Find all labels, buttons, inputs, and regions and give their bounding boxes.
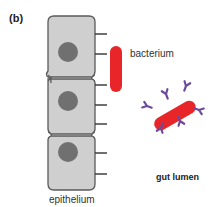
epithelium-column	[47, 16, 108, 190]
bacterium-free	[152, 98, 198, 132]
bacterium-attached	[110, 46, 122, 92]
gut-lumen-label: gut lumen	[156, 172, 199, 182]
epithelium-label: epithelium	[49, 194, 95, 205]
nucleus-3	[58, 142, 78, 162]
bacterium-label: bacterium	[130, 48, 174, 59]
nucleus-2	[58, 91, 78, 111]
microvilli	[95, 34, 107, 174]
antibody-icon	[142, 102, 153, 111]
antibody-icon	[181, 81, 190, 92]
nucleus-1	[58, 42, 78, 62]
bacterium-coated-with-antibodies	[142, 81, 204, 133]
antibody-icon	[162, 89, 171, 100]
